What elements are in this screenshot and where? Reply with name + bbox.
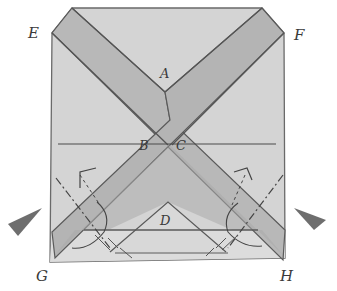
folding-diagram: E F A B C D G H	[0, 0, 337, 291]
label-a: A	[159, 66, 169, 81]
label-e: E	[27, 24, 39, 42]
label-g: G	[36, 267, 48, 285]
label-c: C	[176, 138, 186, 153]
label-f: F	[293, 26, 305, 44]
label-b: B	[138, 138, 149, 153]
push-arrow-right	[294, 208, 326, 230]
label-h: H	[279, 267, 294, 285]
label-d: D	[159, 213, 171, 228]
push-arrow-left	[8, 208, 42, 236]
